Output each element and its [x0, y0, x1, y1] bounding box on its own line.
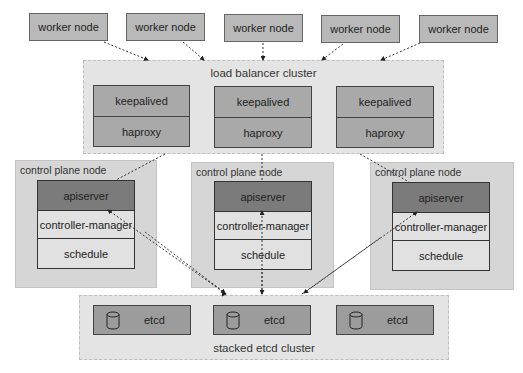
worker-node-label: worker node: [38, 21, 99, 33]
database-icon: [226, 311, 240, 330]
apiserver-box: apiserver: [393, 183, 489, 212]
etcd-label: etcd: [144, 314, 165, 326]
worker-node-label: worker node: [330, 23, 391, 35]
apiserver-box: apiserver: [38, 181, 134, 210]
worker4-to-lb-arrow: [322, 44, 343, 60]
schedule-box: schedule: [393, 241, 489, 270]
controller-manager-box: controller-manager: [393, 212, 489, 241]
worker-node-1: worker node: [29, 13, 108, 41]
haproxy-box: haproxy: [214, 118, 312, 148]
worker-node-3: worker node: [224, 14, 303, 42]
haproxy-box: haproxy: [93, 117, 190, 147]
lb-unit-2: keepalived haproxy: [214, 86, 312, 148]
worker-node-5: worker node: [419, 15, 498, 43]
worker-node-label: worker node: [135, 21, 196, 33]
worker2-to-lb-arrow: [183, 42, 204, 60]
control-plane-1-stack: apiserver controller-manager schedule: [37, 180, 135, 269]
controller-manager-box: controller-manager: [38, 210, 134, 239]
database-icon: [349, 311, 363, 330]
control-plane-title: control plane node: [20, 164, 106, 176]
control-plane-title: control plane node: [375, 166, 461, 178]
worker1-to-lb-arrow: [104, 42, 148, 60]
etcd-node-1: etcd: [93, 305, 191, 335]
lb-unit-3: keepalived haproxy: [336, 86, 434, 148]
keepalived-box: keepalived: [214, 86, 312, 118]
load-balancer-cluster-title: load balancer cluster: [84, 67, 443, 79]
keepalived-box: keepalived: [336, 86, 434, 118]
etcd-label: etcd: [264, 314, 285, 326]
worker-node-label: worker node: [233, 22, 294, 34]
control-plane-title: control plane node: [196, 166, 282, 178]
etcd-node-3: etcd: [336, 305, 434, 335]
etcd-cluster-title: stacked etcd cluster: [80, 342, 448, 354]
etcd-node-2: etcd: [213, 305, 311, 335]
worker-node-label: worker node: [428, 23, 489, 35]
lb-unit-1: keepalived haproxy: [93, 85, 190, 147]
schedule-box: schedule: [215, 240, 311, 269]
control-plane-3-stack: apiserver controller-manager schedule: [392, 182, 490, 271]
haproxy-box: haproxy: [336, 118, 434, 148]
controller-manager-box: controller-manager: [215, 211, 311, 240]
schedule-box: schedule: [38, 239, 134, 268]
database-icon: [106, 311, 120, 330]
worker-node-4: worker node: [321, 15, 400, 43]
apiserver-box: apiserver: [215, 182, 311, 211]
control-plane-2-stack: apiserver controller-manager schedule: [214, 181, 312, 270]
worker-node-2: worker node: [126, 13, 205, 41]
worker5-to-lb-arrow: [381, 43, 420, 60]
etcd-label: etcd: [387, 314, 408, 326]
keepalived-box: keepalived: [93, 85, 190, 117]
